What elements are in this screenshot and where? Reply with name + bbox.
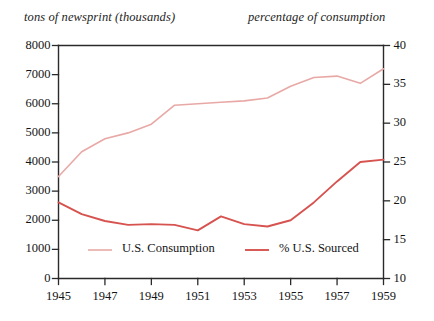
- right-tick-label: 35: [394, 76, 434, 91]
- left-tick-label: 2000: [3, 212, 51, 227]
- x-tick-label: 1953: [219, 289, 269, 304]
- right-tick-label: 20: [394, 193, 434, 208]
- right-tick-label: 10: [394, 271, 434, 286]
- x-tick-label: 1947: [80, 289, 130, 304]
- right-tick-label: 15: [394, 232, 434, 247]
- right-tick-label: 30: [394, 115, 434, 130]
- right-axis-caption: percentage of consumption: [248, 10, 385, 25]
- x-tick-label: 1949: [126, 289, 176, 304]
- x-tick-label: 1957: [312, 289, 362, 304]
- left-tick-label: 0: [3, 271, 51, 286]
- x-tick-label: 1959: [359, 289, 409, 304]
- left-axis-caption: tons of newsprint (thousands): [24, 10, 175, 25]
- x-tick-label: 1945: [34, 289, 84, 304]
- x-tick-label: 1955: [266, 289, 316, 304]
- left-tick-label: 3000: [3, 183, 51, 198]
- series-line-sourced: [59, 160, 384, 231]
- left-tick-label: 1000: [3, 241, 51, 256]
- left-tick-label: 4000: [3, 154, 51, 169]
- left-tick-label: 5000: [3, 125, 51, 140]
- right-tick-label: 40: [394, 38, 434, 53]
- left-tick-label: 7000: [3, 67, 51, 82]
- chart-plot-area: [0, 0, 434, 321]
- legend-label-consumption: U.S. Consumption: [122, 241, 215, 256]
- series-line-consumption: [59, 69, 384, 177]
- left-tick-label: 6000: [3, 96, 51, 111]
- left-tick-label: 8000: [3, 38, 51, 53]
- x-tick-label: 1951: [173, 289, 223, 304]
- legend-label-sourced: % U.S. Sourced: [279, 241, 359, 256]
- right-tick-label: 25: [394, 154, 434, 169]
- chart-figure: tons of newsprint (thousands) percentage…: [0, 0, 434, 321]
